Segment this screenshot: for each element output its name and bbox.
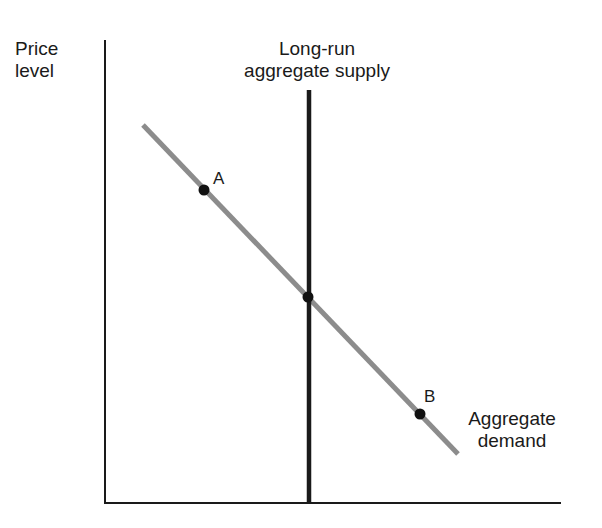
ad-label-line2: demand [452,430,572,452]
equilibrium-point [303,292,314,303]
lras-label-line2: aggregate supply [222,60,412,82]
point-b [415,409,426,420]
point-b-label: B [424,386,435,408]
y-axis-label: Price level [15,38,58,82]
ad-label-line1: Aggregate [452,408,572,430]
lras-label: Long-run aggregate supply [222,38,412,82]
ad-label: Aggregate demand [452,408,572,452]
point-a [199,185,210,196]
point-a-label: A [213,168,224,190]
y-axis-label-line1: Price [15,38,58,60]
aggregate-demand-curve [143,125,458,454]
lras-label-line1: Long-run [222,38,412,60]
y-axis-label-line2: level [15,60,58,82]
